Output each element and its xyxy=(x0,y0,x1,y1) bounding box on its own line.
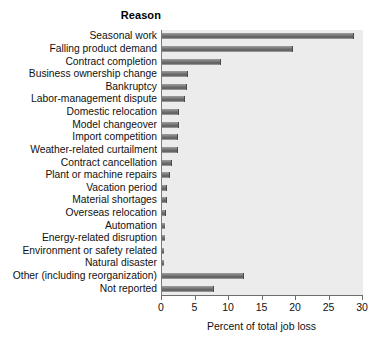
category-label: Bankruptcy xyxy=(0,81,157,92)
bar xyxy=(162,134,178,140)
x-axis-tick xyxy=(262,295,263,300)
bar xyxy=(162,160,172,166)
bar-chart: Reason Seasonal workFalling product dema… xyxy=(0,0,381,348)
x-axis-tick xyxy=(362,295,363,300)
x-axis-tick xyxy=(228,295,229,300)
category-label: Business ownership change xyxy=(0,68,157,79)
category-label: Import competition xyxy=(0,131,157,142)
bar xyxy=(162,46,293,52)
bar xyxy=(162,273,244,279)
category-label: Seasonal work xyxy=(0,30,157,41)
category-label: Domestic relocation xyxy=(0,106,157,117)
bar xyxy=(162,109,179,115)
category-label: Plant or machine repairs xyxy=(0,169,157,180)
bar xyxy=(162,96,185,102)
bar xyxy=(162,172,170,178)
x-axis-tick-label: 25 xyxy=(323,301,335,313)
x-axis-tick xyxy=(329,295,330,300)
category-label: Environment or safety related xyxy=(0,245,157,256)
bar xyxy=(162,59,221,65)
category-label: Other (including reorganization) xyxy=(0,270,157,281)
category-label: Natural disaster xyxy=(0,257,157,268)
category-label: Energy-related disruption xyxy=(0,232,157,243)
bar xyxy=(162,248,164,254)
category-label: Contract cancellation xyxy=(0,157,157,168)
x-axis-tick xyxy=(195,295,196,300)
category-axis-labels: Seasonal workFalling product demandContr… xyxy=(0,30,157,295)
bar xyxy=(162,147,178,153)
x-axis-tick-label: 20 xyxy=(289,301,301,313)
x-axis-tick-label: 5 xyxy=(192,301,198,313)
bar xyxy=(162,185,167,191)
x-axis-tick xyxy=(161,295,162,300)
bar xyxy=(162,210,166,216)
bar xyxy=(162,235,165,241)
x-axis-tick xyxy=(295,295,296,300)
bar xyxy=(162,260,164,266)
x-axis-tick-label: 10 xyxy=(222,301,234,313)
x-axis-tick-label: 30 xyxy=(356,301,368,313)
category-label: Contract completion xyxy=(0,56,157,67)
category-label: Labor-management dispute xyxy=(0,93,157,104)
bar xyxy=(162,122,179,128)
bar xyxy=(162,84,187,90)
x-axis-tick-label: 0 xyxy=(158,301,164,313)
category-label: Vacation period xyxy=(0,182,157,193)
bar xyxy=(162,223,165,229)
chart-title: Reason xyxy=(0,9,161,21)
bar xyxy=(162,286,214,292)
category-label: Not reported xyxy=(0,283,157,294)
category-label: Material shortages xyxy=(0,194,157,205)
bar xyxy=(162,33,354,39)
category-label: Weather-related curtailment xyxy=(0,144,157,155)
bar xyxy=(162,71,188,77)
category-label: Overseas relocation xyxy=(0,207,157,218)
plot-area xyxy=(161,30,363,295)
category-label: Model changeover xyxy=(0,119,157,130)
x-axis-title: Percent of total job loss xyxy=(161,320,362,332)
category-label: Automation xyxy=(0,220,157,231)
category-label: Falling product demand xyxy=(0,43,157,54)
bar xyxy=(162,197,167,203)
x-axis-tick-label: 15 xyxy=(256,301,268,313)
